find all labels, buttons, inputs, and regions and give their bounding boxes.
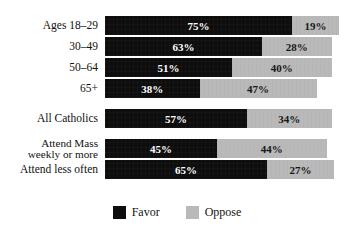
chart-row-label: 30–49 <box>0 41 105 53</box>
legend-item: Favor <box>113 205 160 220</box>
legend-item: Oppose <box>186 205 242 220</box>
bar-value-favor: 45% <box>150 143 172 155</box>
chart-row-label: 65+ <box>0 83 105 95</box>
legend-swatch-favor <box>113 206 126 219</box>
bar-value-oppose: 40% <box>271 62 293 74</box>
chart-bar-track: 65%27% <box>105 160 354 179</box>
chart-bar-track: 57%34% <box>105 109 354 128</box>
bar-value-oppose: 44% <box>261 143 283 155</box>
chart-row: 30–4963%28% <box>0 37 354 56</box>
chart-bar-track: 45%44% <box>105 139 354 158</box>
bar-value-favor: 38% <box>141 83 163 95</box>
bar-value-oppose: 34% <box>278 113 300 125</box>
chart-row: All Catholics57%34% <box>0 109 354 128</box>
chart-row: 50–6451%40% <box>0 58 354 77</box>
bar-segment-favor: 38% <box>105 79 200 98</box>
bar-value-oppose: 28% <box>286 41 308 53</box>
bar-segment-oppose: 27% <box>267 160 334 179</box>
chart-row-label: Attend less often <box>0 164 105 176</box>
bar-value-oppose: 27% <box>289 164 311 176</box>
bar-segment-favor: 65% <box>105 160 267 179</box>
bar-segment-oppose: 34% <box>247 109 332 128</box>
legend-label: Oppose <box>205 205 242 220</box>
bar-segment-favor: 63% <box>105 37 262 56</box>
chart-title <box>0 0 354 3</box>
legend-label: Favor <box>132 205 160 220</box>
bar-segment-oppose: 28% <box>262 37 332 56</box>
bar-segment-favor: 45% <box>105 139 217 158</box>
bar-value-favor: 57% <box>165 113 187 125</box>
bar-value-favor: 65% <box>175 164 197 176</box>
bar-segment-favor: 75% <box>105 16 292 35</box>
bar-segment-favor: 51% <box>105 58 232 77</box>
bar-value-oppose: 19% <box>304 20 326 32</box>
chart-row: Attend Mass weekly or more45%44% <box>0 139 354 158</box>
bar-value-oppose: 47% <box>247 83 269 95</box>
chart-row: 65+38%47% <box>0 79 354 98</box>
chart-bar-track: 75%19% <box>105 16 354 35</box>
chart-legend: FavorOppose <box>0 205 354 220</box>
bar-segment-oppose: 44% <box>217 139 327 158</box>
bar-segment-oppose: 40% <box>232 58 332 77</box>
bar-value-favor: 63% <box>172 41 194 53</box>
chart-row: Ages 18–2975%19% <box>0 16 354 35</box>
bar-value-favor: 51% <box>157 62 179 74</box>
stacked-bar-chart: Ages 18–2975%19%30–4963%28%50–6451%40%65… <box>0 0 354 233</box>
bar-segment-oppose: 19% <box>292 16 339 35</box>
legend-swatch-oppose <box>186 206 199 219</box>
bar-segment-favor: 57% <box>105 109 247 128</box>
chart-row-label: All Catholics <box>0 113 105 125</box>
chart-bar-track: 63%28% <box>105 37 354 56</box>
chart-bar-track: 51%40% <box>105 58 354 77</box>
chart-bar-track: 38%47% <box>105 79 354 98</box>
chart-row-label: Attend Mass weekly or more <box>0 138 105 159</box>
bar-value-favor: 75% <box>187 20 209 32</box>
chart-row-label: Ages 18–29 <box>0 20 105 32</box>
chart-row-label: 50–64 <box>0 62 105 74</box>
bar-segment-oppose: 47% <box>200 79 317 98</box>
chart-plot-area: Ages 18–2975%19%30–4963%28%50–6451%40%65… <box>0 16 354 181</box>
chart-row: Attend less often65%27% <box>0 160 354 179</box>
